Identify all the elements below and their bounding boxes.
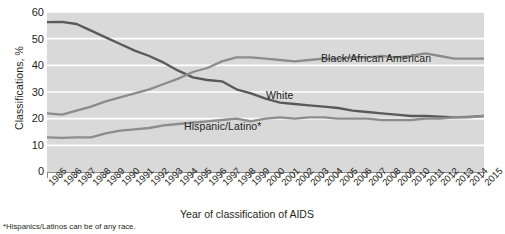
footnote: *Hispanics/Latinos can be of any race. [3,222,136,231]
x-axis-title: Year of classification of AIDS [0,208,494,220]
